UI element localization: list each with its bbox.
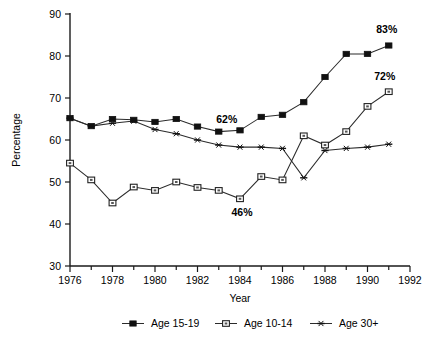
y-tick-label: 50 (49, 176, 61, 188)
data-point-age-15-19 (173, 116, 179, 121)
legend-label-1: Age 10-14 (244, 317, 293, 329)
data-point-age-10-14 (239, 198, 242, 200)
data-point-age-10-14 (196, 186, 199, 188)
data-point-age-10-14 (217, 189, 220, 191)
y-tick-label: 40 (49, 218, 61, 230)
legend-label-2: Age 30+ (339, 317, 378, 329)
x-axis-title: Year (229, 292, 251, 304)
legend-marker-0 (130, 321, 136, 326)
data-point-age-10-14 (302, 135, 305, 137)
y-axis-title: Percentage (10, 113, 22, 167)
data-point-age-15-19 (194, 124, 200, 129)
data-point-age-10-14 (345, 131, 348, 133)
data-label-72: 72% (374, 70, 396, 82)
data-point-age-10-14 (175, 181, 178, 183)
legend-label-0: Age 15-19 (151, 317, 200, 329)
chart-root: 3040506070809019761978198019821984198619… (0, 0, 432, 347)
x-tick-label: 1988 (313, 274, 337, 286)
x-tick-label: 1978 (101, 274, 125, 286)
data-label-62: 62% (216, 113, 238, 125)
data-point-age-10-14 (260, 176, 263, 178)
data-point-age-15-19 (386, 43, 392, 48)
data-point-age-15-19 (322, 74, 328, 79)
data-point-age-15-19 (364, 51, 370, 56)
data-point-age-15-19 (237, 128, 243, 133)
y-tick-label: 30 (49, 260, 61, 272)
data-label-46: 46% (231, 206, 253, 218)
y-tick-label: 70 (49, 92, 61, 104)
data-point-age-15-19 (258, 114, 264, 119)
data-label-83: 83% (376, 23, 398, 35)
data-point-age-15-19 (216, 129, 222, 134)
x-tick-label: 1982 (186, 274, 210, 286)
series-line-age-10-14 (70, 92, 389, 203)
line-chart: 3040506070809019761978198019821984198619… (0, 0, 432, 347)
data-point-age-10-14 (324, 144, 327, 146)
legend-marker-1 (225, 323, 228, 325)
data-point-age-10-14 (90, 179, 93, 181)
data-point-age-10-14 (366, 105, 369, 107)
y-tick-label: 80 (49, 50, 61, 62)
data-point-age-15-19 (279, 112, 285, 117)
data-point-age-10-14 (387, 91, 390, 93)
x-tick-label: 1976 (58, 274, 82, 286)
data-point-age-10-14 (69, 162, 72, 164)
data-point-age-10-14 (281, 179, 284, 181)
x-tick-label: 1984 (228, 274, 252, 286)
data-point-age-10-14 (154, 189, 157, 191)
x-tick-label: 1980 (143, 274, 167, 286)
data-point-age-10-14 (132, 186, 135, 188)
y-tick-label: 90 (49, 8, 61, 20)
series-line-age-30- (70, 118, 389, 178)
x-tick-label: 1986 (271, 274, 295, 286)
x-tick-label: 1990 (356, 274, 380, 286)
data-point-age-10-14 (111, 202, 114, 204)
y-tick-label: 60 (49, 134, 61, 146)
data-point-age-15-19 (152, 119, 158, 124)
data-point-age-15-19 (343, 51, 349, 56)
data-point-age-15-19 (301, 100, 307, 105)
x-tick-label: 1992 (398, 274, 422, 286)
